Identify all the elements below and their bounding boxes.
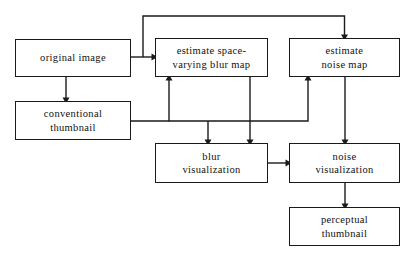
node-estimate-noise-map[interactable]: estimate noise map: [289, 38, 400, 77]
node-blur-visualization[interactable]: blur visualization: [155, 143, 268, 183]
node-perceptual-thumbnail[interactable]: perceptual thumbnail: [289, 207, 400, 246]
node-label: original image: [38, 51, 108, 65]
node-noise-visualization[interactable]: noise visualization: [289, 143, 400, 183]
node-label: blur visualization: [180, 150, 242, 177]
node-label: estimate noise map: [319, 44, 369, 71]
node-estimate-space-varying-blur-map[interactable]: estimate space- varying blur map: [155, 38, 268, 77]
node-label: estimate space- varying blur map: [171, 44, 253, 71]
node-label: noise visualization: [313, 150, 375, 177]
flow-diagram: original image conventional thumbnail es…: [0, 0, 419, 260]
node-label: conventional thumbnail: [42, 107, 104, 134]
node-conventional-thumbnail[interactable]: conventional thumbnail: [15, 101, 131, 140]
node-original-image[interactable]: original image: [15, 39, 131, 77]
node-label: perceptual thumbnail: [319, 213, 370, 240]
edge-thumbnail-to-blur-map: [131, 79, 169, 121]
edge-thumbnail-to-noise-map: [169, 79, 308, 121]
